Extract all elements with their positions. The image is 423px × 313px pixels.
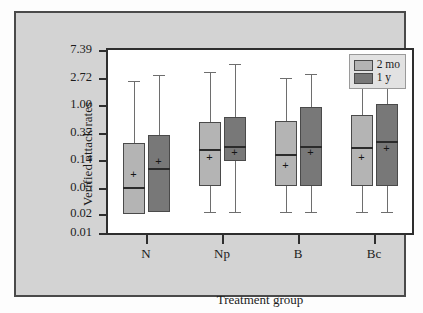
y-axis-tick bbox=[99, 78, 108, 80]
median-line bbox=[351, 147, 373, 149]
legend-label: 2 mo bbox=[377, 59, 400, 71]
whisker-cap-lower bbox=[305, 212, 317, 213]
whisker-cap-lower bbox=[229, 212, 241, 213]
y-axis-tick-label: 1.00 bbox=[32, 98, 92, 111]
x-axis-tick bbox=[222, 233, 224, 244]
figure: Verified attack rates Treatment group 7.… bbox=[0, 0, 423, 313]
whisker-upper bbox=[311, 74, 312, 107]
x-axis-tick bbox=[298, 233, 300, 244]
whisker-lower bbox=[286, 186, 287, 213]
figure-frame: Verified attack rates Treatment group 7.… bbox=[14, 11, 406, 297]
mean-marker: + bbox=[155, 155, 161, 166]
median-line bbox=[123, 187, 145, 189]
x-axis-tick bbox=[374, 233, 376, 244]
mean-marker: + bbox=[206, 152, 212, 163]
whisker-upper bbox=[286, 78, 287, 121]
y-axis-tick-label: 0.05 bbox=[32, 181, 92, 194]
whisker-lower bbox=[210, 186, 211, 213]
y-axis-tick-label: 0.37 bbox=[32, 126, 92, 139]
whisker-cap-lower bbox=[381, 212, 393, 213]
whisker-cap-lower bbox=[356, 212, 368, 213]
y-axis-tick bbox=[99, 233, 108, 235]
whisker-lower bbox=[235, 161, 236, 213]
y-axis-tick-label: 0.01 bbox=[32, 226, 92, 239]
mean-marker: + bbox=[383, 142, 389, 153]
mean-marker: + bbox=[231, 147, 237, 158]
mean-marker: + bbox=[130, 168, 136, 179]
y-axis-tick bbox=[99, 214, 108, 216]
legend: 2 mo1 y bbox=[349, 54, 406, 89]
whisker-cap-upper bbox=[153, 75, 165, 76]
x-axis-title: Treatment group bbox=[106, 292, 414, 308]
median-line bbox=[148, 168, 170, 170]
whisker-cap-lower bbox=[204, 212, 216, 213]
plot-area: 7.392.721.000.370.140.050.020.01 NNpBBc … bbox=[106, 48, 414, 235]
median-line bbox=[275, 154, 297, 156]
y-axis-tick bbox=[99, 50, 108, 52]
y-axis-tick-label: 0.02 bbox=[32, 207, 92, 220]
x-axis-tick-label: Np bbox=[192, 247, 252, 260]
legend-swatch bbox=[354, 60, 373, 71]
whisker-lower bbox=[362, 186, 363, 213]
x-axis-tick-label: N bbox=[116, 247, 176, 260]
y-axis-tick bbox=[99, 188, 108, 190]
whisker-upper bbox=[235, 64, 236, 117]
x-axis-tick bbox=[146, 233, 148, 244]
whisker-cap-upper bbox=[204, 72, 216, 73]
y-axis-tick-label: 0.14 bbox=[32, 153, 92, 166]
whisker-lower bbox=[311, 186, 312, 213]
mean-marker: + bbox=[282, 160, 288, 171]
x-axis-tick-label: Bc bbox=[344, 247, 404, 260]
whisker-cap-upper bbox=[229, 64, 241, 65]
y-axis-tick bbox=[99, 160, 108, 162]
whisker-cap-upper bbox=[280, 78, 292, 79]
y-axis-tick bbox=[99, 105, 108, 107]
box-body bbox=[148, 135, 170, 212]
whisker-upper bbox=[210, 72, 211, 122]
y-axis-tick bbox=[99, 133, 108, 135]
whisker-upper bbox=[134, 81, 135, 143]
whisker-upper bbox=[159, 75, 160, 135]
legend-item: 1 y bbox=[354, 72, 400, 84]
y-axis-tick-label: 2.72 bbox=[32, 71, 92, 84]
y-axis-tick-label: 7.39 bbox=[32, 43, 92, 56]
legend-label: 1 y bbox=[377, 72, 391, 84]
legend-swatch bbox=[354, 73, 373, 84]
whisker-lower bbox=[387, 186, 388, 213]
whisker-cap-upper bbox=[305, 74, 317, 75]
whisker-cap-lower bbox=[280, 212, 292, 213]
whisker-cap-upper bbox=[128, 81, 140, 82]
legend-item: 2 mo bbox=[354, 59, 400, 71]
mean-marker: + bbox=[358, 152, 364, 163]
x-axis-tick-label: B bbox=[268, 247, 328, 260]
mean-marker: + bbox=[307, 147, 313, 158]
